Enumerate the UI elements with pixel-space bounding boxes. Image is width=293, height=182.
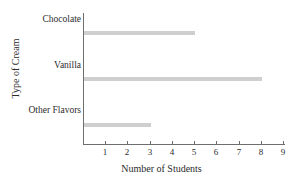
x-tick-9	[283, 141, 284, 145]
x-tick-label-7: 7	[229, 147, 249, 157]
x-tick-5	[194, 141, 195, 145]
x-tick-6	[216, 141, 217, 145]
x-tick-label-8: 8	[251, 147, 271, 157]
x-axis-line	[83, 144, 285, 145]
y-axis-title: Type of Cream	[10, 9, 21, 129]
bar-chocolate	[84, 31, 195, 35]
x-tick-3	[150, 141, 151, 145]
x-tick-4	[172, 141, 173, 145]
x-tick-label-6: 6	[206, 147, 226, 157]
x-tick-label-3: 3	[140, 147, 160, 157]
x-tick-1	[105, 141, 106, 145]
bar-chart: Type of Cream Chocolate Vanilla Other Fl…	[0, 0, 293, 182]
category-label-other-flavors: Other Flavors	[28, 105, 81, 116]
category-label-chocolate: Chocolate	[42, 14, 81, 25]
x-tick-label-1: 1	[95, 147, 115, 157]
x-tick-7	[239, 141, 240, 145]
x-tick-label-5: 5	[184, 147, 204, 157]
x-tick-label-4: 4	[162, 147, 182, 157]
x-tick-2	[127, 141, 128, 145]
x-tick-label-9: 9	[273, 147, 293, 157]
bar-other-flavors	[84, 123, 151, 127]
x-tick-label-2: 2	[117, 147, 137, 157]
x-axis-title: Number of Students	[0, 163, 293, 175]
x-tick-8	[261, 141, 262, 145]
plot-area	[83, 13, 285, 145]
category-label-vanilla: Vanilla	[54, 60, 81, 71]
bar-vanilla	[84, 77, 262, 81]
